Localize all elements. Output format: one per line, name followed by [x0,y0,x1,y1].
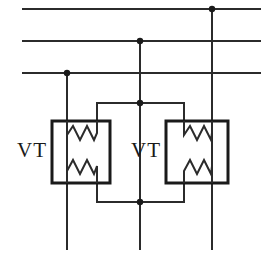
left-vt-label: VT [17,138,47,162]
junction-bus1-right [209,6,215,12]
junction-bus2-middle [137,38,143,44]
vt-circuit-diagram: VT VT [0,0,263,270]
junction-top-bridge [137,100,143,106]
circuit-canvas: VT VT [0,0,263,270]
junction-bus3-left [64,70,70,76]
junction-bottom-bridge [137,199,143,205]
right-vt-label: VT [131,138,161,162]
